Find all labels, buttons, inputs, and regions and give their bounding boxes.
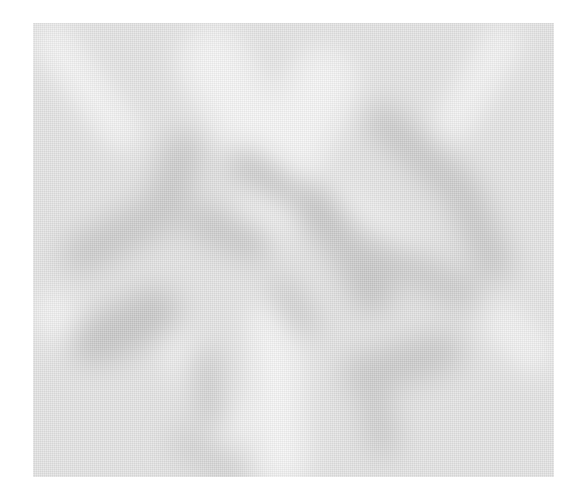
- blur-pattern: [33, 23, 554, 477]
- abstract-image: [33, 23, 554, 477]
